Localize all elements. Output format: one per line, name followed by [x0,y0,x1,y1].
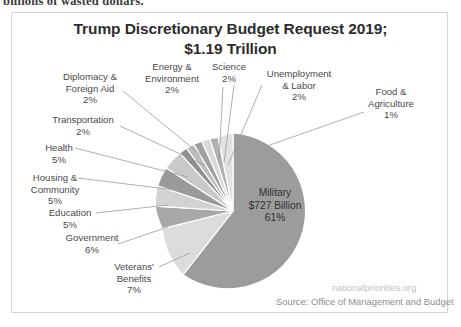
callout-veterans-line2: Benefits [102,273,166,285]
callout-government: Government 6% [54,232,130,255]
chart-container: Trump Discretionary Budget Request 2019;… [11,12,448,313]
inner-label-military: Military $727 Billion 61% [225,187,325,225]
callout-unemployment-line2: & Labor [252,80,346,92]
callout-diplomacy-line1: Diplomacy & [42,71,138,83]
callout-energy-line1: Energy & [132,61,212,73]
callout-science-line1: Science [201,61,257,73]
callout-science: Science 2% [201,61,257,84]
chart-screenshot: billions of wasted dollars. Trump Discre… [0,0,461,327]
callout-housing-community: Housing & Community 5% [18,172,92,207]
callout-science-percent: 2% [201,73,257,85]
leader-line-food [247,112,364,153]
callout-health-percent: 5% [32,154,86,166]
callout-health: Health 5% [32,142,86,165]
callout-energy-line2: Environment [132,73,212,85]
callout-energy-percent: 2% [132,84,212,96]
callout-energy-environment: Energy & Environment 2% [132,61,212,96]
callout-diplomacy-line2: Foreign Aid [42,83,138,95]
callout-health-line1: Health [32,142,86,154]
callout-education-percent: 5% [36,219,104,231]
clipped-caption-above-chart: billions of wasted dollars. [3,0,233,8]
callout-food-agriculture: Food & Agriculture 1% [352,86,430,121]
callout-veterans-line1: Veterans' [102,261,166,273]
callout-transportation: Transportation 2% [40,114,126,137]
callout-food-percent: 1% [352,109,430,121]
callout-food-line1: Food & [352,86,430,98]
callout-unemployment-percent: 2% [252,91,346,103]
callout-housing-percent: 5% [18,195,92,207]
callout-diplomacy-foreign-aid: Diplomacy & Foreign Aid 2% [42,71,138,106]
inner-label-military-percent: 61% [225,212,325,225]
callout-housing-line1: Housing & [18,172,92,184]
callout-education-line1: Education [36,207,104,219]
callout-education: Education 5% [36,207,104,230]
callout-government-percent: 6% [54,244,130,256]
watermark-nationalpriorities: nationalpriorities.org [332,282,416,293]
callout-unemployment-line1: Unemployment [252,68,346,80]
callout-housing-line2: Community [18,184,92,196]
callout-unemployment-labor: Unemployment & Labor 2% [252,68,346,103]
inner-label-military-name: Military [225,187,325,200]
callout-transportation-line1: Transportation [40,114,126,126]
callout-diplomacy-percent: 2% [42,94,138,106]
callout-government-line1: Government [54,232,130,244]
callout-veterans-benefits: Veterans' Benefits 7% [102,261,166,296]
callout-food-line2: Agriculture [352,98,430,110]
callout-transportation-percent: 2% [40,126,126,138]
callout-veterans-percent: 7% [102,284,166,296]
source-note: Source: Office of Management and Budget [276,296,454,307]
inner-label-military-value: $727 Billion [225,200,325,213]
